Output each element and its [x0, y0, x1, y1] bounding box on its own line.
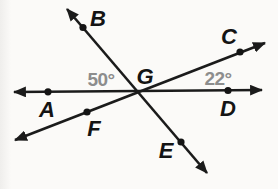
point-F-label: F: [87, 116, 101, 141]
point-C-label: C: [221, 24, 238, 49]
point-G-label: G: [136, 64, 153, 89]
point-B-label: B: [90, 6, 106, 31]
geometry-figure: A B C D E F G 50° 22°: [0, 0, 278, 189]
point-A-label: A: [38, 97, 55, 122]
angle-BGA-measure-label: 50°: [87, 69, 114, 90]
angle-CGD-measure-label: 22°: [204, 68, 231, 89]
point-E-label: E: [159, 138, 175, 163]
point-D-label: D: [220, 96, 236, 121]
point-C-dot: [236, 48, 243, 55]
point-E-dot: [177, 138, 184, 145]
geometry-figure-canvas: A B C D E F G 50° 22°: [0, 0, 278, 189]
point-F-dot: [83, 108, 90, 115]
point-B-dot: [79, 24, 86, 31]
point-A-dot: [44, 88, 51, 95]
